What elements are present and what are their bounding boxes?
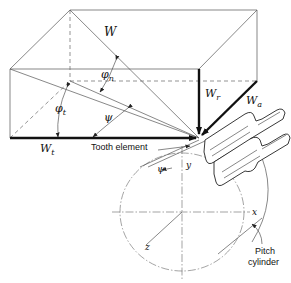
label-pitch-cylinder-1: Pitch: [255, 246, 275, 256]
label-psi-lower: ψ: [157, 163, 165, 174]
label-w-r: Wr: [205, 87, 221, 102]
label-axis-x: x: [252, 207, 257, 217]
pitch-cylinder-leader: [252, 224, 262, 244]
tooth-element-lines: [140, 140, 205, 170]
helical-gear-force-diagram: W φn φt ψ Wr Wa Wt Tooth element ψ y x z…: [0, 0, 291, 283]
label-axis-y: y: [185, 160, 192, 170]
label-tooth-element: Tooth element: [91, 142, 148, 152]
label-phi-t: φt: [55, 102, 67, 117]
label-w-a: Wa: [246, 94, 262, 109]
pitch-cylinder-back: [252, 158, 268, 242]
label-pitch-cylinder-2: cylinder: [248, 257, 279, 267]
label-psi-upper: ψ: [104, 111, 113, 124]
label-w-t: Wt: [40, 142, 55, 157]
label-w: W: [104, 25, 118, 39]
angle-marks: [58, 60, 128, 137]
label-axis-z: z: [144, 242, 150, 252]
